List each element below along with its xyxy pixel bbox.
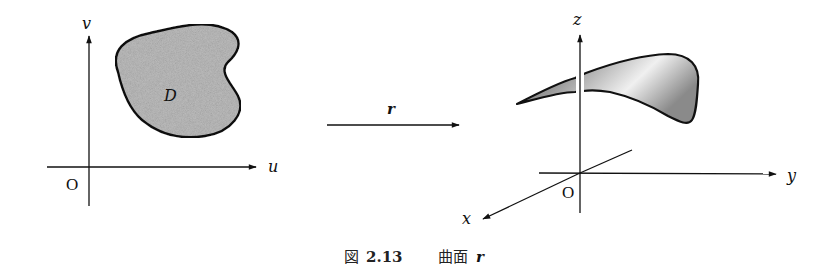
figure-caption: 図 2.13 曲面 r <box>344 248 485 266</box>
y-axis-label: y <box>786 166 797 185</box>
caption-title: 曲面 <box>438 248 468 266</box>
x-axis-back <box>580 150 632 173</box>
region-label: D <box>163 86 177 105</box>
x-axis-label: x <box>462 209 471 228</box>
surface-r <box>517 54 698 123</box>
caption-symbol: r <box>476 248 485 266</box>
caption-prefix: 図 <box>344 248 359 266</box>
y-axis <box>539 173 776 174</box>
caption-number: 2.13 <box>366 248 403 266</box>
mapping-label: r <box>387 100 396 118</box>
origin-label-right: O <box>562 183 574 202</box>
mapping-r: r <box>327 100 459 125</box>
u-axis-label: u <box>268 157 278 176</box>
v-axis-label: v <box>82 14 91 33</box>
xyz-space: z y x O <box>462 10 797 228</box>
uv-plane: u v O D <box>47 14 278 206</box>
figure-canvas: u v O D r z y x O 図 2.13 曲面 r <box>0 0 840 280</box>
z-axis-label: z <box>572 10 582 29</box>
region-d <box>116 24 240 137</box>
origin-label-left: O <box>66 175 78 194</box>
